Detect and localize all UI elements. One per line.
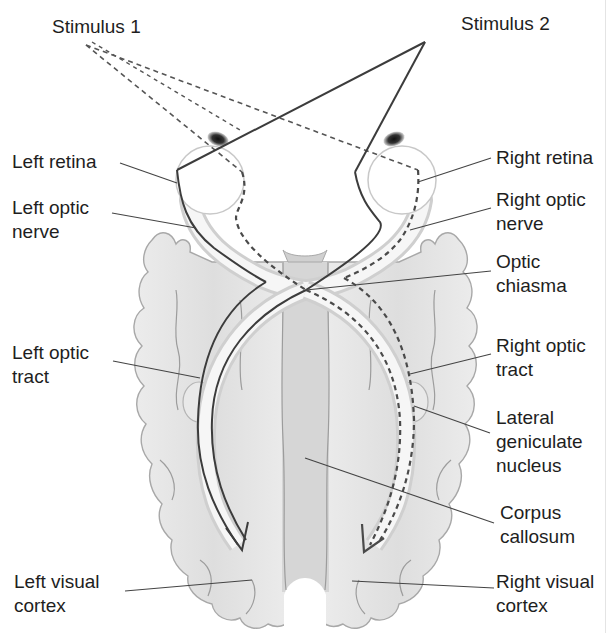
- light-rays: [86, 42, 425, 172]
- label-lgn-line1: Lateral: [496, 407, 554, 428]
- label-left-optic-tract-line1: Left optic: [12, 342, 89, 363]
- label-right-visual-cortex-line1: Right visual: [496, 571, 594, 592]
- left-eye: [176, 146, 244, 214]
- label-left-visual-cortex-line1: Left visual: [14, 571, 100, 592]
- label-optic-chiasma-line1: Optic: [496, 251, 540, 272]
- brainstem-top: [283, 250, 327, 262]
- label-optic-chiasma-line2: chiasma: [496, 275, 567, 296]
- label-right-optic-tract-line1: Right optic: [496, 335, 586, 356]
- label-right-optic-tract-line2: tract: [496, 359, 534, 380]
- label-lgn-line2: geniculate: [496, 431, 583, 452]
- label-left-visual-cortex-line2: cortex: [14, 595, 66, 616]
- corpus-callosum-region: [282, 262, 329, 592]
- label-stimulus-2: Stimulus 2: [461, 13, 550, 34]
- label-lgn-line3: nucleus: [496, 455, 562, 476]
- stimulus-1-ray-right: [86, 45, 418, 170]
- label-corpus-callosum-line2: callosum: [500, 526, 575, 547]
- label-right-retina: Right retina: [496, 147, 594, 168]
- label-stimulus-1: Stimulus 1: [52, 16, 141, 37]
- visual-pathway-diagram: Stimulus 1 Stimulus 2 Left retina Left o…: [0, 0, 611, 633]
- label-left-optic-nerve-line2: nerve: [12, 221, 60, 242]
- label-left-retina: Left retina: [12, 151, 97, 172]
- label-right-optic-nerve-line2: nerve: [496, 213, 544, 234]
- label-right-optic-nerve-line1: Right optic: [496, 189, 586, 210]
- label-right-visual-cortex-line2: cortex: [496, 595, 548, 616]
- longitudinal-fissure-notch: [284, 578, 326, 633]
- label-left-optic-nerve-line1: Left optic: [12, 197, 89, 218]
- label-corpus-callosum-line1: Corpus: [500, 502, 561, 523]
- label-left-optic-tract-line2: tract: [12, 366, 50, 387]
